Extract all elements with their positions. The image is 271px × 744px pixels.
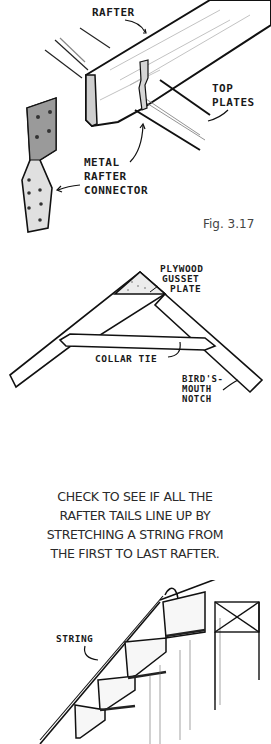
rafter-connector-illustration: RAFTER TOP PLATES METAL RAFTER CONNECTOR: [0, 0, 271, 250]
metal-connector-drawing: [22, 98, 56, 232]
label-connector-2: RAFTER: [84, 170, 127, 183]
label-top-plates-2: PLATES: [212, 96, 255, 109]
instruction-line: RAFTER TAILS LINE UP BY: [20, 506, 250, 525]
instruction-line: THE FIRST TO LAST RAFTER.: [20, 544, 250, 563]
collar-tie-illustration: PLYWOOD GUSSET PLATE COLLAR TIE BIRD'S- …: [0, 250, 271, 450]
label-connector-1: METAL: [84, 156, 120, 169]
figure-caption: Fig. 3.17: [203, 217, 254, 231]
figure-string-line: STRING: [0, 580, 271, 744]
string-line-illustration: STRING: [0, 580, 271, 744]
label-notch-1: BIRD'S-: [182, 374, 223, 384]
label-notch-3: NOTCH: [182, 394, 212, 404]
instruction-line: STRETCHING A STRING FROM: [20, 525, 250, 544]
figure-collar-tie: PLYWOOD GUSSET PLATE COLLAR TIE BIRD'S- …: [0, 250, 271, 450]
instruction-text: CHECK TO SEE IF ALL THE RAFTER TAILS LIN…: [20, 487, 250, 563]
instruction-line: CHECK TO SEE IF ALL THE: [20, 487, 250, 506]
figure-rafter-connector: RAFTER TOP PLATES METAL RAFTER CONNECTOR…: [0, 0, 271, 250]
label-notch-2: MOUTH: [182, 384, 212, 394]
label-connector-3: CONNECTOR: [84, 184, 148, 197]
label-top-plates-1: TOP: [212, 82, 233, 95]
label-collar-tie: COLLAR TIE: [95, 353, 157, 364]
label-string: STRING: [56, 633, 93, 644]
label-rafter: RAFTER: [92, 6, 135, 19]
label-gusset-3: PLATE: [170, 283, 201, 294]
